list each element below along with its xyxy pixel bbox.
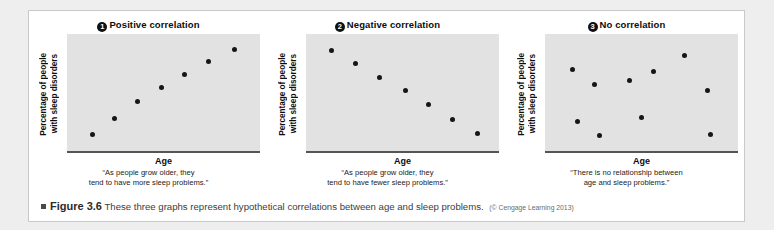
scatter-plot-area — [545, 34, 738, 151]
y-axis-label-line-1: Percentage of people — [516, 53, 527, 136]
data-point — [592, 82, 597, 87]
y-axis-label: Percentage of people with sleep disorder… — [274, 35, 302, 153]
panel-quote-line-2: age and sleep problems.” — [511, 178, 742, 188]
panel-title: 2Negative correlation — [268, 19, 507, 32]
plot-wrapper — [545, 34, 738, 155]
panel-quote-line-1: “As people grow older, they — [272, 168, 503, 178]
panel-number-badge-icon: 1 — [97, 22, 107, 32]
panel-positive-correlation: 1Positive correlation Percentage of peop… — [29, 15, 268, 175]
data-point — [575, 119, 580, 124]
data-point — [639, 115, 644, 120]
y-axis-label-line-2: with sleep disorders — [288, 54, 299, 133]
data-point — [112, 116, 117, 121]
data-point — [450, 117, 455, 122]
y-axis-label: Percentage of people with sleep disorder… — [513, 35, 541, 153]
data-point — [353, 61, 358, 66]
x-axis-label: Age — [67, 156, 260, 166]
scatter-plot-area — [67, 34, 260, 151]
data-point — [475, 131, 480, 136]
x-axis-line — [545, 151, 738, 153]
y-axis-label: Percentage of people with sleep disorder… — [35, 35, 63, 153]
y-axis-label-line-2: with sleep disorders — [527, 54, 538, 133]
panel-quote-line-1: “As people grow older, they — [33, 168, 264, 178]
panel-quote: “There is no relationship between age an… — [511, 168, 742, 187]
x-axis-line — [67, 151, 260, 153]
data-point — [426, 102, 431, 107]
data-point — [159, 85, 164, 90]
panel-title-text: Positive correlation — [109, 19, 199, 30]
y-axis-label-line-1: Percentage of people — [38, 53, 49, 136]
square-bullet-icon — [41, 204, 46, 209]
data-point — [206, 59, 211, 64]
data-point — [708, 132, 713, 137]
data-point — [329, 48, 334, 53]
x-axis-label: Age — [545, 156, 738, 166]
figure-number: Figure 3.6 — [50, 200, 102, 212]
data-point — [182, 72, 187, 77]
figure-card: 1Positive correlation Percentage of peop… — [28, 10, 745, 222]
figure-caption: Figure 3.6 These three graphs represent … — [41, 200, 734, 214]
data-point — [403, 88, 408, 93]
data-point — [570, 67, 575, 72]
panel-quote-line-1: “There is no relationship between — [511, 168, 742, 178]
data-point — [651, 69, 656, 74]
data-point — [135, 99, 140, 104]
y-axis-label-line-2: with sleep disorders — [49, 54, 60, 133]
panel-number-badge-icon: 3 — [588, 22, 598, 32]
data-point — [90, 132, 95, 137]
panel-number-badge-icon: 2 — [335, 22, 345, 32]
data-point — [232, 47, 237, 52]
panel-quote: “As people grow older, they tend to have… — [272, 168, 503, 187]
data-point — [682, 53, 687, 58]
panel-row: 1Positive correlation Percentage of peop… — [29, 15, 746, 175]
plot-wrapper — [67, 34, 260, 155]
panel-quote-line-2: tend to have more sleep problems.” — [33, 178, 264, 188]
panel-title-text: No correlation — [600, 19, 666, 30]
x-axis-label: Age — [306, 156, 499, 166]
y-axis-label-line-1: Percentage of people — [277, 53, 288, 136]
panel-negative-correlation: 2Negative correlation Percentage of peop… — [268, 15, 507, 175]
data-point — [597, 133, 602, 138]
panel-no-correlation: 3No correlation Percentage of people wit… — [507, 15, 746, 175]
figure-credit: (© Cengage Learning 2013) — [489, 204, 573, 211]
plot-wrapper — [306, 34, 499, 155]
figure-caption-text: These three graphs represent hypothetica… — [104, 201, 483, 212]
scatter-plot-area — [306, 34, 499, 151]
data-point — [705, 88, 710, 93]
x-axis-line — [306, 151, 499, 153]
panel-title-text: Negative correlation — [347, 19, 440, 30]
data-point — [627, 78, 632, 83]
panel-quote: “As people grow older, they tend to have… — [33, 168, 264, 187]
data-point — [377, 75, 382, 80]
panel-title: 3No correlation — [507, 19, 746, 32]
panel-title: 1Positive correlation — [29, 19, 268, 32]
panel-quote-line-2: tend to have fewer sleep problems.” — [272, 178, 503, 188]
